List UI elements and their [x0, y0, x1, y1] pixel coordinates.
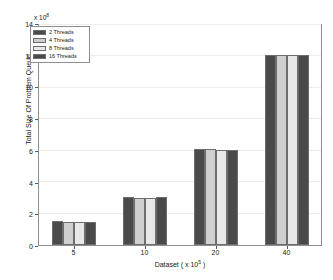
legend-item[interactable]: 16 Threads — [33, 53, 87, 60]
y-tick-label: 0 — [29, 243, 33, 250]
bar[interactable] — [63, 222, 74, 245]
y-exponent-value: 8 — [46, 12, 49, 18]
legend-swatch — [33, 30, 46, 35]
legend-label: 4 Threads — [49, 37, 74, 44]
x-tick-mark — [216, 246, 217, 249]
bar[interactable] — [85, 222, 96, 245]
legend-label: 8 Threads — [49, 45, 74, 52]
legend-item[interactable]: 8 Threads — [33, 45, 87, 52]
x-axis-title-text: Dataset ( x 10 — [155, 261, 199, 268]
x-axis-ticks: 5102040 — [38, 246, 322, 260]
x-axis-title: Dataset ( x 105 ) — [38, 259, 322, 268]
legend-label: 16 Threads — [49, 53, 77, 60]
legend-swatch — [33, 38, 46, 43]
bar[interactable] — [298, 55, 309, 245]
y-axis-exponent-label: x 108 — [34, 12, 49, 21]
bar[interactable] — [276, 55, 287, 245]
bar[interactable] — [227, 150, 238, 245]
x-tick-label: 5 — [72, 249, 76, 256]
figure-canvas: x 108 02468101214 Total Size Of Problem … — [0, 0, 333, 280]
y-tick-label: 2 — [29, 211, 33, 218]
bar[interactable] — [123, 197, 134, 245]
bar[interactable] — [265, 55, 276, 245]
bar[interactable] — [52, 221, 63, 245]
x-tick-label: 40 — [283, 249, 291, 256]
legend-label: 2 Threads — [49, 29, 74, 36]
chart-legend: 2 Threads4 Threads8 Threads16 Threads — [30, 26, 90, 63]
bar-group — [123, 25, 167, 245]
bar[interactable] — [145, 198, 156, 245]
bar[interactable] — [287, 55, 298, 245]
legend-item[interactable]: 2 Threads — [33, 29, 87, 36]
y-exponent-prefix: x 10 — [34, 14, 46, 21]
legend-swatch — [33, 46, 46, 51]
x-tick-mark — [287, 246, 288, 249]
bar-group — [194, 25, 238, 245]
bar[interactable] — [216, 150, 227, 245]
bar[interactable] — [74, 222, 85, 245]
bar[interactable] — [156, 197, 167, 245]
legend-swatch — [33, 54, 46, 59]
x-axis-title-suffix: ) — [201, 261, 205, 268]
legend-item[interactable]: 4 Threads — [33, 37, 87, 44]
bar[interactable] — [134, 198, 145, 245]
bar[interactable] — [194, 149, 205, 245]
x-tick-label: 10 — [141, 249, 149, 256]
bar[interactable] — [205, 149, 216, 245]
x-tick-mark — [145, 246, 146, 249]
x-tick-label: 20 — [212, 249, 220, 256]
bar-group — [265, 25, 309, 245]
x-tick-mark — [74, 246, 75, 249]
y-tick-label: 4 — [29, 179, 33, 186]
